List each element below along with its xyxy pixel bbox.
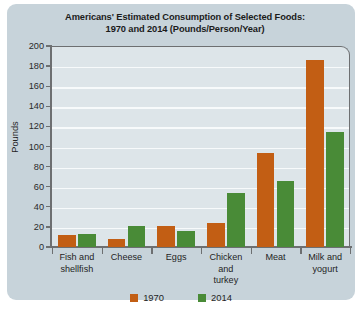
x-axis-label-line: Meat	[248, 252, 304, 264]
y-axis-tick	[46, 45, 51, 46]
y-axis-tick-label: 140	[18, 101, 44, 111]
x-axis-label-line: turkey	[198, 275, 254, 287]
gridline	[52, 148, 349, 149]
x-axis-category-label: Chickenandturkey	[198, 252, 254, 287]
y-axis-tick-labels: 020406080100120140160180200	[14, 0, 44, 321]
gridline	[52, 228, 349, 229]
x-axis-label-line: Fish and	[49, 252, 105, 264]
chart-title: Americans' Estimated Consumption of Sele…	[35, 11, 335, 35]
legend-label-2014: 2014	[211, 292, 232, 303]
y-axis-tick-label: 80	[18, 161, 44, 171]
x-axis-label-line: Eggs	[148, 252, 204, 264]
y-axis-tick	[46, 186, 51, 187]
x-axis-label-line: Chicken	[198, 252, 254, 264]
bar-2014-cheese	[128, 226, 146, 247]
x-axis-label-line: shellfish	[49, 264, 105, 276]
bar-2014-meat	[277, 181, 295, 247]
plot-area	[52, 47, 349, 247]
chart-legend: 19702014	[0, 292, 362, 303]
x-axis-category-label: Cheese	[99, 252, 155, 264]
legend-swatch-1970	[130, 294, 138, 302]
y-axis-tick-label: 200	[18, 41, 44, 51]
y-axis-tick	[46, 226, 51, 227]
y-axis-tick	[46, 86, 51, 87]
y-axis-tick	[46, 246, 51, 247]
chart-title-line-2: 1970 and 2014 (Pounds/Person/Year)	[35, 23, 335, 35]
bar-1970-milk-and-yogurt	[306, 60, 324, 247]
y-axis-tick-label: 100	[18, 141, 44, 151]
bar-2014-fish-and-shellfish	[78, 234, 96, 247]
y-axis-tick	[46, 206, 51, 207]
legend-label-1970: 1970	[143, 292, 164, 303]
bar-2014-eggs	[177, 231, 195, 247]
y-axis-tick-label: 20	[18, 221, 44, 231]
bar-1970-chicken-and-turkey	[207, 223, 225, 247]
y-axis-tick	[46, 166, 51, 167]
legend-item-1970: 1970	[130, 292, 164, 303]
y-axis-tick-label: 160	[18, 81, 44, 91]
bar-1970-meat	[257, 153, 275, 247]
y-axis-tick-label: 120	[18, 121, 44, 131]
y-axis-tick	[46, 106, 51, 107]
x-axis-label-line: and	[198, 264, 254, 276]
gridline	[52, 168, 349, 169]
plot-frame	[52, 46, 350, 247]
x-axis-label-line: Milk and	[297, 252, 353, 264]
y-axis-tick	[46, 146, 51, 147]
legend-swatch-2014	[198, 294, 206, 302]
bar-1970-eggs	[157, 226, 175, 247]
gridline	[52, 208, 349, 209]
bar-2014-chicken-and-turkey	[227, 193, 245, 247]
y-axis-tick	[46, 65, 51, 66]
x-axis-category-label: Fish andshellfish	[49, 252, 105, 275]
x-axis-label-line: yogurt	[297, 264, 353, 276]
x-axis-category-label: Meat	[248, 252, 304, 264]
gridline	[52, 188, 349, 189]
y-axis-tick-label: 0	[18, 242, 44, 252]
gridline	[52, 67, 349, 68]
y-axis-tick-label: 40	[18, 201, 44, 211]
x-axis-label-line: Cheese	[99, 252, 155, 264]
x-axis-category-label: Eggs	[148, 252, 204, 264]
x-axis-category-label: Milk andyogurt	[297, 252, 353, 275]
bar-1970-cheese	[108, 239, 126, 247]
legend-item-2014: 2014	[198, 292, 232, 303]
y-axis-tick-label: 180	[18, 61, 44, 71]
gridline	[52, 87, 349, 88]
chart-title-line-1: Americans' Estimated Consumption of Sele…	[35, 11, 335, 23]
gridline	[52, 127, 349, 128]
y-axis-tick-label: 60	[18, 181, 44, 191]
y-axis-tick	[46, 126, 51, 127]
bar-2014-milk-and-yogurt	[326, 132, 344, 247]
bar-1970-fish-and-shellfish	[58, 235, 76, 247]
gridline	[52, 107, 349, 108]
